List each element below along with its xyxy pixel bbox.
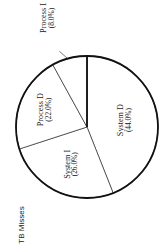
slice-label-value: (22.0%) [44,97,53,122]
slice-label-value: (44.0%) [124,108,133,133]
slice-label-process-i: Process I(8.0%) [39,3,56,33]
pie-chart: System D(44.0%)System I(26.0%)Process D(… [0,0,162,251]
chart-title: TB Misses [17,206,26,243]
callout-line-process-i [59,51,68,59]
slice-label-system-d: System D(44.0%) [116,104,133,136]
slice-label-system-i: System I(26.0%) [63,150,80,179]
slice-label-value: (26.0%) [70,152,79,177]
slice-label-value: (8.0%) [47,7,56,28]
slice-label-process-d: Process D(22.0%) [36,93,53,126]
